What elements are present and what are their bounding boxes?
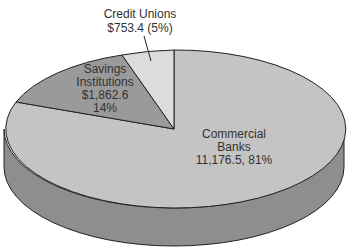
savings-label-line1: Savings (84, 62, 127, 76)
commercial-label-line1: Commercial (202, 127, 266, 141)
commercial-label-value: 11,176.5, 81% (196, 153, 273, 167)
savings-label-value: $1,862.6 (82, 88, 129, 102)
credit-unions-label-name: Credit Unions (104, 7, 177, 21)
savings-label-percent: 14% (93, 101, 117, 115)
credit-unions-label-value: $753.4 (5%) (107, 21, 172, 35)
commercial-label-line2: Banks (217, 140, 250, 154)
savings-label-line2: Institutions (76, 75, 133, 89)
pie-chart: Credit Unions $753.4 (5%) Savings Instit… (0, 0, 349, 252)
